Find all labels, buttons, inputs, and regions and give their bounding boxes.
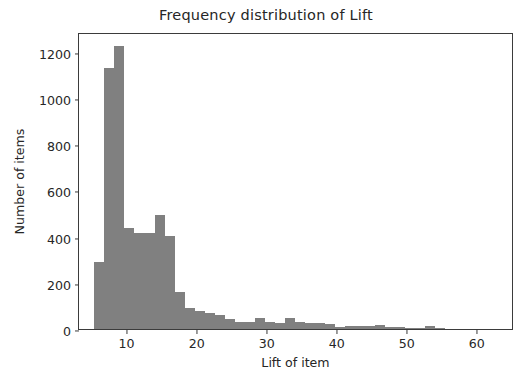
x-tick-label: 30 <box>259 336 275 351</box>
x-tick-mark <box>266 329 267 334</box>
x-tick-label: 40 <box>329 336 345 351</box>
y-tick-label: 600 <box>47 185 71 200</box>
histogram-bar <box>415 328 425 329</box>
histogram-bar <box>144 233 154 329</box>
x-tick-label: 10 <box>119 336 135 351</box>
histogram-bar <box>175 292 185 329</box>
histogram-bar <box>94 262 104 329</box>
histogram-bar <box>124 228 134 329</box>
x-tick-mark <box>196 329 197 334</box>
x-tick-mark <box>406 329 407 334</box>
y-tick-label: 800 <box>47 139 71 154</box>
histogram-bar <box>295 322 305 329</box>
y-tick-mark <box>75 192 80 193</box>
histogram-bar <box>265 322 275 329</box>
histogram-bar <box>305 323 315 329</box>
histogram-bar <box>365 326 375 329</box>
histogram-bar <box>195 311 205 329</box>
chart-title: Frequency distribution of Lift <box>0 7 532 23</box>
histogram-bar <box>315 323 325 329</box>
x-axis-label: Lift of item <box>78 355 513 370</box>
histogram-bar <box>225 319 235 329</box>
histogram-bar <box>425 326 435 329</box>
y-tick-mark <box>75 238 80 239</box>
y-tick-mark <box>75 99 80 100</box>
histogram-bars <box>79 34 512 329</box>
y-axis-label: Number of items <box>12 33 28 330</box>
histogram-bar <box>114 46 124 329</box>
histogram-bar <box>215 315 225 329</box>
histogram-bar <box>385 327 395 329</box>
y-tick-label: 0 <box>63 324 71 339</box>
x-tick-mark <box>476 329 477 334</box>
histogram-figure: Frequency distribution of Lift Number of… <box>0 0 532 383</box>
y-tick-mark <box>75 146 80 147</box>
y-tick-label: 1200 <box>39 46 71 61</box>
x-tick-label: 50 <box>399 336 415 351</box>
histogram-bar <box>245 322 255 329</box>
x-tick-mark <box>336 329 337 334</box>
histogram-bar <box>155 215 165 329</box>
histogram-bar <box>134 233 144 329</box>
y-tick-mark <box>75 284 80 285</box>
x-tick-label: 20 <box>189 336 205 351</box>
x-tick-label: 60 <box>469 336 485 351</box>
histogram-bar <box>275 323 285 329</box>
y-tick-label: 1000 <box>39 92 71 107</box>
histogram-bar <box>325 324 335 329</box>
y-tick-mark <box>75 330 80 331</box>
histogram-bar <box>435 328 445 329</box>
histogram-bar <box>185 308 195 329</box>
y-tick-mark <box>75 53 80 54</box>
y-tick-label: 200 <box>47 277 71 292</box>
y-tick-label: 400 <box>47 231 71 246</box>
histogram-bar <box>395 327 405 329</box>
histogram-bar <box>375 325 385 329</box>
histogram-bar <box>285 318 295 329</box>
histogram-bar <box>165 236 175 329</box>
histogram-bar <box>345 326 355 329</box>
histogram-bar <box>205 313 215 329</box>
histogram-bar <box>255 318 265 329</box>
histogram-bar <box>355 326 365 329</box>
histogram-bar <box>235 322 245 329</box>
x-tick-mark <box>126 329 127 334</box>
histogram-bar <box>104 68 114 329</box>
plot-area: 020040060080010001200 102030405060 <box>78 33 513 330</box>
